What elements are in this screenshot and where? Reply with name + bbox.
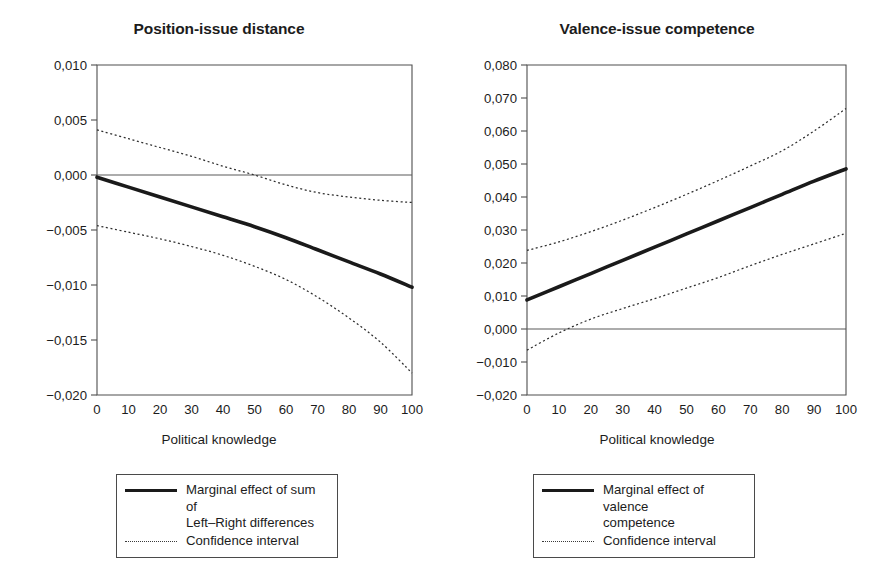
x-tick-label: 0 <box>523 402 530 417</box>
series-marginal-effect-line <box>97 177 412 287</box>
x-tick-label: 60 <box>711 402 726 417</box>
legend-label-main-effect: Marginal effect of sum of Left–Right dif… <box>186 482 328 532</box>
y-tick-label: 0,010 <box>54 58 87 73</box>
y-tick-label: 0,000 <box>54 168 87 183</box>
x-tick-label: 30 <box>184 402 199 417</box>
legend-label-confidence-interval: Confidence interval <box>603 533 716 550</box>
x-tick-label: 50 <box>247 402 262 417</box>
series-marginal-effect-line <box>527 169 846 300</box>
series-confidence-interval-line <box>97 226 412 373</box>
legend-item-confidence-interval: Confidence interval <box>542 533 745 550</box>
legend-right: Marginal effect of valence competence Co… <box>533 474 755 558</box>
y-tick-label: 0,040 <box>484 190 517 205</box>
series-confidence-interval-line <box>527 233 846 350</box>
marginal-effects-figure: Position-issue distance 0,0100,0050,000−… <box>0 0 877 581</box>
x-tick-label: 10 <box>552 402 567 417</box>
x-tick-label: 80 <box>775 402 790 417</box>
y-tick-label: −0,020 <box>476 388 517 403</box>
legend-item-main-effect: Marginal effect of valence competence <box>542 482 745 532</box>
y-tick-label: 0,000 <box>484 322 517 337</box>
y-tick-label: 0,080 <box>484 58 517 73</box>
y-tick-label: 0,060 <box>484 124 517 139</box>
legend-swatch-dotted-line-icon <box>125 533 177 549</box>
x-axis-title-right: Political knowledge <box>438 432 876 447</box>
legend-swatch-dotted-line-icon <box>542 533 594 549</box>
y-tick-label: 0,010 <box>484 289 517 304</box>
x-axis-title-left: Political knowledge <box>0 432 438 447</box>
x-tick-label: 20 <box>153 402 168 417</box>
y-tick-label: 0,030 <box>484 223 517 238</box>
y-tick-label: 0,070 <box>484 91 517 106</box>
x-tick-label: 90 <box>807 402 822 417</box>
x-tick-label: 60 <box>279 402 294 417</box>
legend-swatch-solid-line-icon <box>542 482 594 498</box>
y-tick-label: −0,015 <box>46 333 87 348</box>
y-tick-label: −0,010 <box>476 355 517 370</box>
plot-area-left: 0,0100,0050,000−0,005−0,010−0,015−0,0200… <box>0 0 438 470</box>
x-tick-label: 70 <box>743 402 758 417</box>
x-tick-label: 70 <box>310 402 325 417</box>
plot-area-right: 0,0800,0700,0600,0500,0400,0300,0200,010… <box>438 0 876 470</box>
y-tick-label: −0,005 <box>46 223 87 238</box>
x-tick-label: 30 <box>615 402 630 417</box>
x-tick-label: 40 <box>216 402 231 417</box>
legend-label-main-effect: Marginal effect of valence competence <box>603 482 745 532</box>
x-tick-label: 50 <box>679 402 694 417</box>
legend-swatch-solid-line-icon <box>125 482 177 498</box>
y-tick-label: 0,020 <box>484 256 517 271</box>
x-tick-label: 80 <box>342 402 357 417</box>
legend-label-confidence-interval: Confidence interval <box>186 533 299 550</box>
x-tick-label: 100 <box>835 402 857 417</box>
x-tick-label: 100 <box>401 402 423 417</box>
x-tick-label: 40 <box>647 402 662 417</box>
legend-item-confidence-interval: Confidence interval <box>125 533 328 550</box>
y-tick-label: −0,020 <box>46 388 87 403</box>
legend-left: Marginal effect of sum of Left–Right dif… <box>116 474 338 558</box>
x-tick-label: 20 <box>583 402 598 417</box>
x-tick-label: 10 <box>121 402 136 417</box>
y-tick-label: −0,010 <box>46 278 87 293</box>
y-tick-label: 0,005 <box>54 113 87 128</box>
series-confidence-interval-line <box>527 109 846 251</box>
y-tick-label: 0,050 <box>484 157 517 172</box>
x-tick-label: 90 <box>373 402 388 417</box>
x-tick-label: 0 <box>93 402 100 417</box>
legend-item-main-effect: Marginal effect of sum of Left–Right dif… <box>125 482 328 532</box>
